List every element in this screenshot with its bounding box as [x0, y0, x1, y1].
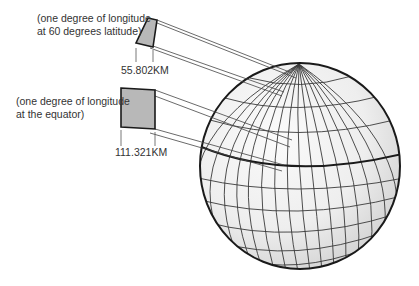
- label-lat60: (one degree of longitude at 60 degrees l…: [37, 12, 151, 38]
- label-lat60-line1: (one degree of longitude: [37, 12, 151, 25]
- measurement-equator: 111.321KM: [115, 146, 167, 158]
- label-lat60-line2: at 60 degrees latitude): [37, 25, 151, 38]
- label-equator-line1: (one degree of longitude: [16, 95, 130, 108]
- measurement-lat60: 55.802KM: [121, 64, 169, 76]
- globe-diagram: [0, 0, 419, 286]
- label-equator-line2: at the equator): [16, 108, 130, 121]
- label-equator: (one degree of longitude at the equator): [16, 95, 130, 121]
